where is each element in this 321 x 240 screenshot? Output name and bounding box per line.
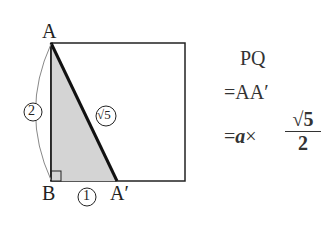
- point-b-label: B: [42, 182, 55, 205]
- fraction: √5 2: [285, 108, 321, 155]
- side-ab-label: 2: [28, 103, 35, 119]
- point-a-prime-label: A′: [110, 182, 129, 205]
- side-ba-prime-label: 1: [83, 188, 90, 204]
- point-a-label: A: [42, 20, 56, 43]
- side-aa-prime-label: √5: [97, 107, 111, 123]
- equation-line1: PQ: [240, 47, 266, 70]
- equation-line3: =a×: [224, 125, 257, 148]
- equation-line2: =AA′: [224, 81, 269, 104]
